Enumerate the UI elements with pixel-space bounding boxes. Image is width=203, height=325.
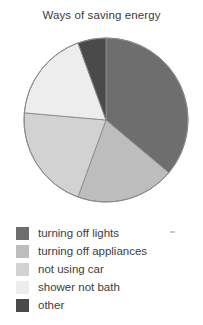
legend-item[interactable]: turning off appliances <box>16 242 203 260</box>
chart-legend: turning off lights turning off appliance… <box>16 224 203 314</box>
legend-label: turning off lights <box>38 227 119 240</box>
legend-item[interactable]: turning off lights <box>16 224 203 242</box>
legend-label: shower not bath <box>38 281 120 294</box>
pie-slice-group <box>24 38 188 202</box>
legend-swatch-turning-off-appliances <box>16 245 29 258</box>
legend-label: not using car <box>38 263 104 276</box>
legend-item[interactable]: shower not bath <box>16 278 203 296</box>
legend-item[interactable]: not using car <box>16 260 203 278</box>
scan-artifact-mark <box>170 231 175 233</box>
legend-item[interactable]: other <box>16 296 203 314</box>
legend-swatch-shower-not-bath <box>16 281 29 294</box>
legend-label: turning off appliances <box>38 245 147 258</box>
legend-label: other <box>38 299 64 312</box>
pie-chart-figure: Ways of saving energy turning off lights… <box>0 0 203 325</box>
legend-swatch-not-using-car <box>16 263 29 276</box>
pie-chart-svg <box>0 0 203 216</box>
pie-chart-plot-area <box>0 0 203 216</box>
legend-swatch-other <box>16 299 29 312</box>
legend-swatch-turning-off-lights <box>16 227 29 240</box>
